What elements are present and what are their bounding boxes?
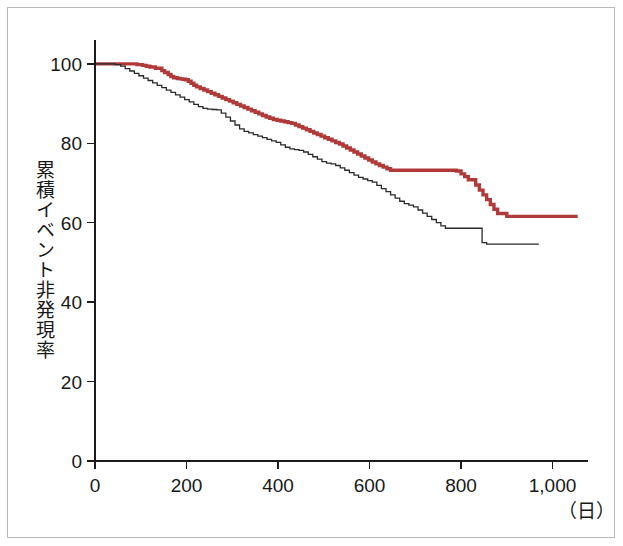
tick-group — [87, 64, 553, 469]
y-tick-label: 0 — [71, 451, 82, 472]
series-red-curve — [95, 64, 578, 217]
x-tick-label: 1,000 — [529, 475, 577, 496]
y-tick-label: 60 — [61, 213, 82, 234]
y-tick-label: 20 — [61, 372, 82, 393]
series-black-curve — [95, 64, 539, 244]
axis-lines — [95, 40, 588, 461]
x-tick-label: 600 — [354, 475, 386, 496]
y-tick-label: 40 — [61, 292, 82, 313]
x-tick-label: 0 — [90, 475, 101, 496]
figure-root: 02040608010002004006008001,000 （日） 累積イベン… — [0, 0, 623, 546]
x-tick-label: 800 — [445, 475, 477, 496]
y-tick-label: 100 — [50, 54, 82, 75]
x-axis-unit-label: （日） — [558, 500, 615, 522]
series-group — [95, 64, 578, 244]
x-tick-label: 400 — [262, 475, 294, 496]
axis-group — [95, 40, 588, 461]
y-axis-title: 累積イベント非発現率 — [26, 160, 54, 360]
tick-label-group: 02040608010002004006008001,000 — [50, 54, 576, 496]
x-tick-label: 200 — [171, 475, 203, 496]
kaplan-meier-plot: 02040608010002004006008001,000 （日） — [0, 0, 623, 546]
y-tick-label: 80 — [61, 133, 82, 154]
